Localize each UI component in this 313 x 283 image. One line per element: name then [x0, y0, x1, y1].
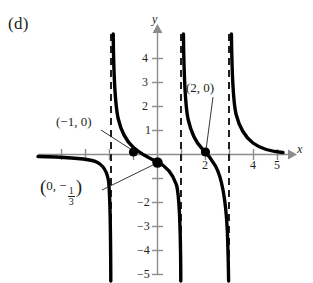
x-axis-label: x: [297, 142, 302, 157]
annotation-point-2-0: (2, 0): [186, 80, 214, 96]
marked-points: [129, 147, 210, 167]
point-2-0: [201, 147, 210, 156]
y-tick-label-neg3: −3: [137, 219, 150, 234]
x-tick-label-5: 5: [274, 158, 280, 173]
point-0-neg-third: [152, 157, 162, 167]
y-tick-label-3: 3: [142, 75, 148, 90]
y-tick-label-4: 4: [142, 51, 148, 66]
annotation-point-0-neg-third: (0, −13): [40, 176, 82, 207]
curve-branches: [38, 34, 283, 281]
rational-function-graph: [0, 0, 313, 283]
fraction-one-third: 13: [68, 186, 75, 207]
y-tick-label-2: 2: [142, 99, 148, 114]
y-tick-label-neg4: −4: [137, 243, 150, 258]
fraction-denominator: 3: [68, 196, 75, 207]
x-axis-arrowhead: [288, 150, 297, 160]
panel-label: (d): [8, 14, 29, 34]
fraction-numerator: 1: [68, 186, 75, 196]
curve-branch-right: [231, 34, 283, 153]
y-tick-label-neg2: −2: [137, 195, 150, 210]
point-neg1-0: [129, 147, 138, 156]
x-tick-label-2: 2: [202, 158, 208, 173]
axes-group: [38, 24, 297, 275]
y-axis-label: y: [152, 12, 157, 27]
x-tick-label-4: 4: [250, 158, 256, 173]
annotation-point-neg1-0: (−1, 0): [56, 114, 92, 130]
annotation-lead-text: 0, −: [46, 178, 66, 193]
annotation-close-paren: ): [76, 176, 82, 197]
leader-line-2-0: [206, 97, 213, 150]
y-tick-label-1: 1: [145, 123, 151, 138]
y-tick-label-neg5: −5: [137, 267, 150, 282]
